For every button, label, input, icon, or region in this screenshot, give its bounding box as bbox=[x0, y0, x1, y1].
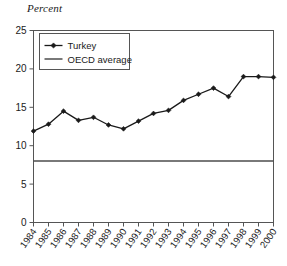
line-chart-plot: 0510152025 19841985198619871988198919901… bbox=[0, 0, 287, 266]
y-axis-tick-label: 10 bbox=[15, 140, 27, 151]
data-point-marker bbox=[121, 126, 126, 131]
y-axis-tick-label: 5 bbox=[21, 179, 27, 190]
chart-container: Percent 0510152025 198419851986198719881… bbox=[0, 0, 287, 266]
data-point-marker bbox=[31, 129, 36, 134]
data-point-marker bbox=[136, 119, 141, 124]
data-point-marker bbox=[106, 123, 111, 128]
x-axis-ticks: 1984198519861987198819891990199119921993… bbox=[18, 223, 279, 250]
y-axis-tick-label: 15 bbox=[15, 102, 27, 113]
y-axis-tick-label: 25 bbox=[15, 25, 27, 36]
y-axis-ticks: 0510152025 bbox=[15, 25, 33, 228]
legend-label-turkey: Turkey bbox=[68, 40, 97, 51]
legend-label-oecd-average: OECD average bbox=[68, 54, 132, 65]
data-point-marker bbox=[196, 92, 201, 97]
y-axis-tick-label: 0 bbox=[21, 217, 27, 228]
x-axis-tick-label: 2000 bbox=[258, 226, 279, 250]
data-point-marker bbox=[151, 111, 156, 116]
y-axis-tick-label: 20 bbox=[15, 63, 27, 74]
data-point-marker bbox=[91, 115, 96, 120]
series-turkey-line bbox=[31, 74, 276, 133]
data-point-marker bbox=[271, 75, 276, 80]
data-point-marker bbox=[256, 74, 261, 79]
chart-legend: TurkeyOECD average bbox=[40, 34, 132, 70]
